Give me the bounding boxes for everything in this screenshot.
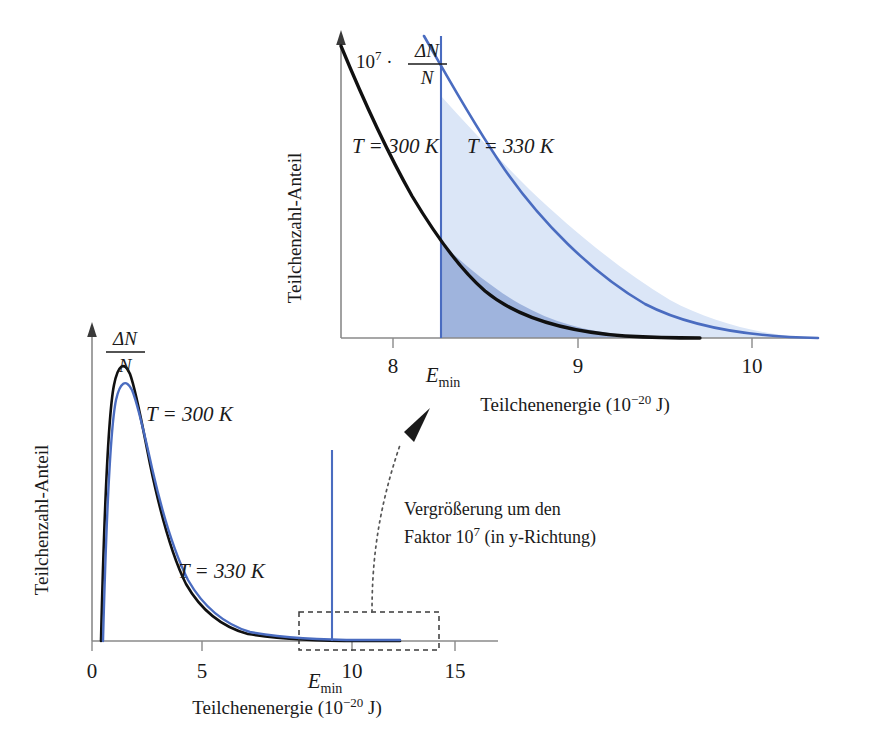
maxwell-boltzmann-figure: Teilchenzahl-Anteil 107 · ΔN N T = 300 K… [0,0,882,731]
zoom-region-box [299,612,439,650]
main-xtick-label-10: 10 [342,659,363,683]
main-ylabel: Teilchenzahl-Anteil [31,445,52,596]
main-xtick-label-0: 0 [87,659,98,683]
main-series-label-330k: T = 330 K [178,559,266,583]
magnification-annotation: Vergrößerung um den Faktor 107 (in y-Ric… [404,499,596,548]
inset-y-symbol: 107 · ΔN N [356,40,447,88]
inset-emin-label: Emin [425,363,461,390]
zoom-pointer-line [372,445,400,612]
inset-xlabel: Teilchenenergie (10−20 J) [480,392,670,416]
svg-text:107 ·: 107 · [356,48,393,72]
zoom-pointer-arrow-icon [404,408,430,442]
inset-y-axis-arrow-icon [336,30,346,45]
main-emin-label: Emin [307,669,343,696]
inset-xtick-label-8: 8 [388,354,399,378]
main-xlabel: Teilchenenergie (10−20 J) [192,695,382,719]
main-series-label-300k: T = 300 K [146,402,234,426]
inset-chart: Teilchenzahl-Anteil 107 · ΔN N T = 300 K… [284,30,818,416]
main-xtick-label-5: 5 [197,659,208,683]
inset-series-label-300k: T = 300 K [352,134,440,158]
annotation-line-1: Vergrößerung um den [404,499,561,519]
main-xtick-label-15: 15 [445,659,466,683]
inset-n: N [420,67,435,88]
main-delta-n: ΔN [112,328,138,349]
main-n: N [118,355,133,376]
main-y-symbol: ΔN N [106,328,145,376]
inset-delta-n: ΔN [414,40,440,61]
inset-ylabel: Teilchenzahl-Anteil [284,153,305,304]
inset-xtick-label-9: 9 [573,354,584,378]
main-y-axis-arrow-icon [87,322,97,337]
inset-series-label-330k: T = 330 K [467,134,555,158]
figure-container: Teilchenzahl-Anteil 107 · ΔN N T = 300 K… [0,0,882,731]
annotation-line-2: Faktor 107 (in y-Richtung) [404,524,596,548]
inset-xtick-label-10: 10 [742,354,763,378]
